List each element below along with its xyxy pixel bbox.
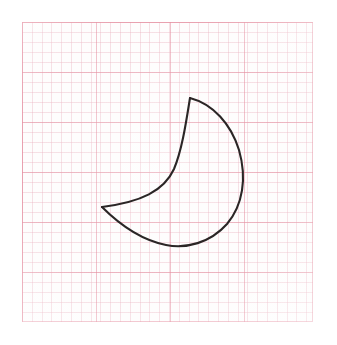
image-canvas <box>0 0 337 345</box>
graph-paper <box>22 22 313 322</box>
paper-shading-overlay <box>22 22 313 322</box>
